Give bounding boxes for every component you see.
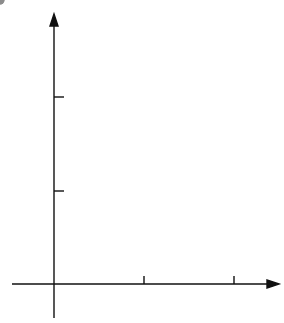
point-p2-marker xyxy=(0,0,5,5)
graph-figure xyxy=(0,0,284,323)
y-axis-arrow-icon xyxy=(50,14,58,26)
x-axis-arrow-icon xyxy=(267,280,279,288)
axes xyxy=(12,14,279,318)
